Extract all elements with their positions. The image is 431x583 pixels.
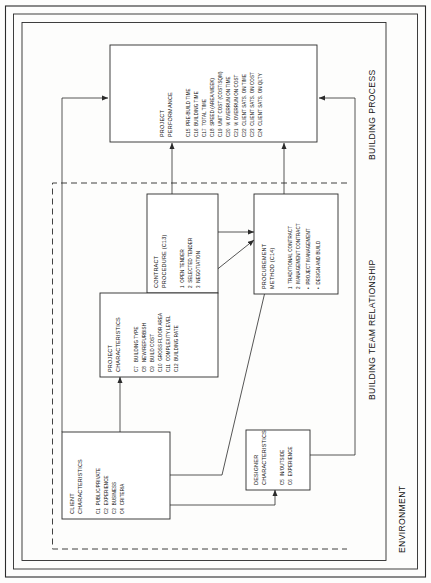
- node-designer-characteristics-title-2: CHARACTERISTICS: [261, 430, 267, 485]
- node-project-characteristics-item: C12 BUILDING RATE: [174, 325, 179, 372]
- label-building-process: BUILDING PROCESS: [367, 69, 377, 160]
- node-project-performance-item: C21 % OVERRUN ON COST: [234, 74, 239, 137]
- node-project-characteristics-title-2: CHARACTERISTICS: [115, 317, 121, 372]
- node-client-characteristics-title-2: CHARACTERISTICS: [77, 459, 83, 514]
- label-building-team-relationship: BUILDING TEAM RELATIONSHIP: [367, 259, 377, 400]
- edge-client-to-designer: [170, 490, 275, 505]
- node-contract-procedure-item: 2 SELECTED TENDER: [188, 237, 193, 288]
- node-project-characteristics[interactable]: PROJECT CHARACTERISTICS C7 BUILDING TYPE…: [100, 293, 218, 377]
- node-project-performance-item: C19 UNIT COST (COST/SQM): [218, 71, 223, 137]
- node-designer-characteristics-item: C6 EXPERIENCE: [288, 446, 293, 485]
- node-procurement-method-item: 2 MANAGEMENT CONTRACT: [296, 223, 301, 289]
- node-designer-characteristics[interactable]: DESIGNER CHARACTERISTICS C5 IN/OUTSIDE C…: [246, 430, 310, 490]
- node-project-performance-title-2: PERFORMANCE: [167, 92, 173, 137]
- node-project-performance[interactable]: PROJECT PERFORMANCE C15 PRE-BUILD TIME C…: [110, 45, 317, 142]
- node-project-performance-title-1: PROJECT: [159, 109, 165, 137]
- node-procurement-method-item: • DESIGN AND BUILD: [316, 240, 321, 289]
- node-designer-characteristics-item: C5 IN/OUTSIDE: [280, 450, 285, 485]
- node-project-characteristics-item: C8 NEW/REFURBISH: [142, 323, 147, 372]
- node-contract-procedure-title-2: PROCEDURE (C13): [161, 235, 167, 288]
- node-procurement-method-item: • PROJECT MANAGEMENT: [306, 228, 311, 289]
- node-project-performance-item: C18 SPEED (AREA/WEEK): [210, 77, 215, 137]
- node-project-performance-item: C23 CLIENT SATS. ON COST: [250, 72, 255, 137]
- node-project-performance-item: C17 TOTAL TIME: [202, 99, 207, 137]
- node-procurement-method-title-1: PROCUREMENT: [261, 243, 267, 289]
- node-project-characteristics-item: C7 BUILDING TYPE: [134, 327, 139, 372]
- label-environment: ENVIRONMENT: [397, 485, 407, 553]
- node-client-characteristics-item: C3 BUSINESS: [112, 482, 117, 514]
- node-project-performance-item: C15 PRE-BUILD TIME: [186, 88, 191, 137]
- node-client-characteristics-item: C2 EXPERIENCE: [104, 475, 109, 514]
- node-procurement-method-title-2: METHOD (C14): [269, 247, 275, 289]
- node-project-characteristics-item: C9 BUILD COST: [150, 334, 155, 372]
- node-contract-procedure-item: 1 OPEN TENDER: [180, 249, 185, 288]
- node-contract-procedure[interactable]: CONTRACT PROCEDURE (C13) 1 OPEN TENDER 2…: [147, 194, 218, 293]
- node-project-performance-item: C20 % OVERRUN ON TIME: [226, 76, 231, 137]
- node-project-performance-item: C16 BUILDING TIME: [194, 91, 199, 137]
- edge-client-to-performance: [62, 98, 108, 432]
- node-client-characteristics-title-1: CLIENT: [69, 493, 75, 514]
- node-project-characteristics-item: C10 GROSS FLOOR AREA: [158, 313, 163, 372]
- node-designer-characteristics-title-1: DESIGNER: [253, 455, 259, 485]
- node-client-characteristics-item: C1 PUBLIC/PRIVATE: [96, 468, 101, 514]
- node-client-characteristics-item: C4 CRITERIA: [120, 484, 125, 514]
- diagram-canvas: PROJECT PERFORMANCE C15 PRE-BUILD TIME C…: [0, 0, 431, 583]
- diagram-svg: PROJECT PERFORMANCE C15 PRE-BUILD TIME C…: [0, 0, 431, 583]
- node-contract-procedure-title-1: CONTRACT: [153, 255, 159, 288]
- node-contract-procedure-item: 3 NEGOTIATION: [196, 251, 201, 288]
- node-project-characteristics-title-1: PROJECT: [107, 344, 113, 372]
- node-project-performance-item: C24 CLIENT SATS. ON QLTY: [258, 73, 263, 137]
- node-procurement-method[interactable]: PROCUREMENT METHOD (C14) 1 TRADITIONAL C…: [254, 194, 338, 294]
- node-project-characteristics-item: C11 COMPLEXITY LEVEL: [166, 315, 171, 372]
- node-procurement-method-item: 1 TRADITIONAL CONTRACT: [288, 226, 293, 289]
- node-client-characteristics[interactable]: CLIENT CHARACTERISTICS C1 PUBLIC/PRIVATE…: [62, 432, 170, 519]
- node-project-performance-item: C22 CLIENT SATS. ON TIME: [242, 74, 247, 137]
